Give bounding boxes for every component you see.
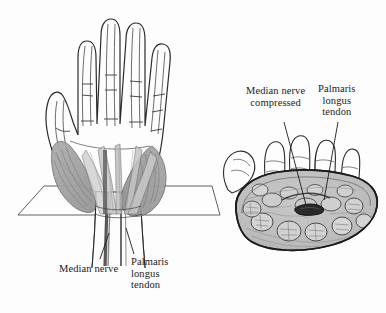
label-palmaris-longus-tendon-left: Palmaris longus tendon xyxy=(131,256,169,291)
anatomy-figure: Median nerve Palmaris longus tendon Medi… xyxy=(0,0,386,313)
label-palmaris-longus-tendon-right: Palmaris longus tendon xyxy=(318,83,356,118)
label-palmaris-left-line3: tendon xyxy=(131,279,169,291)
right-cross-section-drawing xyxy=(224,122,378,250)
compressed-median-nerve xyxy=(295,204,324,215)
label-median-nerve-left: Median nerve xyxy=(59,263,118,275)
carpal-tunnel-section xyxy=(236,170,377,250)
label-palmaris-right-line2: longus xyxy=(318,95,356,107)
label-palmaris-left-line1: Palmaris xyxy=(131,256,169,268)
label-median-compressed-line2: compressed xyxy=(246,97,305,109)
anatomy-illustration xyxy=(0,0,386,313)
label-median-compressed-line1: Median nerve xyxy=(246,85,305,97)
label-palmaris-left-line2: longus xyxy=(131,268,169,280)
left-hand-drawing xyxy=(18,19,220,268)
label-palmaris-right-line1: Palmaris xyxy=(318,83,356,95)
label-palmaris-right-line3: tendon xyxy=(318,106,356,118)
label-median-nerve-compressed: Median nerve compressed xyxy=(246,85,305,108)
label-median-nerve-left-text: Median nerve xyxy=(59,263,118,275)
